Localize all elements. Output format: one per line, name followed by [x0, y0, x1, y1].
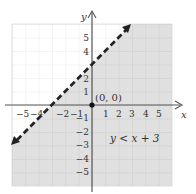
y-tick-label: −1	[76, 113, 89, 123]
x-tick-label: −2	[56, 109, 69, 119]
inequality-graph: x y −5 −4 −2 −1 1 2 3 4 5 5 4 2 1 −1 −2 …	[0, 0, 196, 194]
y-tick-label: −4	[76, 154, 90, 164]
x-tick-label: 5	[156, 109, 162, 119]
x-tick-label: −5	[16, 109, 30, 119]
y-tick-label: −5	[76, 167, 90, 177]
y-tick-label: 5	[83, 33, 89, 43]
origin-point	[89, 102, 94, 107]
y-tick-label: −3	[76, 140, 90, 150]
x-tick-label: 3	[129, 109, 135, 119]
x-tick-label: 1	[103, 109, 109, 119]
x-tick-label: −4	[30, 109, 44, 119]
inequality-label: y < x + 3	[109, 132, 160, 144]
origin-label: (0, 0)	[95, 92, 122, 103]
y-tick-label: 2	[83, 74, 89, 84]
x-axis-label: x	[181, 109, 187, 120]
y-tick-label: 1	[83, 87, 89, 97]
x-tick-label: 2	[116, 109, 122, 119]
y-tick-label: 4	[83, 47, 89, 57]
x-tick-label: 4	[143, 109, 149, 119]
y-tick-label: −2	[76, 127, 89, 137]
y-axis-label: y	[80, 11, 87, 22]
